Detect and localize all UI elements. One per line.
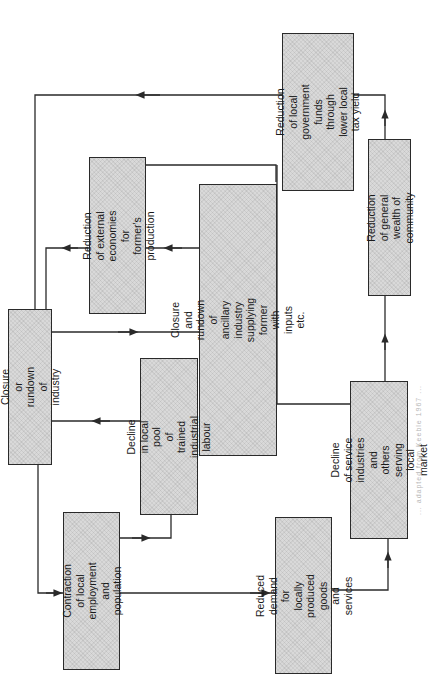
edge-service-external bbox=[277, 165, 350, 404]
node-label: Decline in local pool of trained industr… bbox=[125, 415, 213, 457]
node-reduction-gov-funds: Reduction of local government funds thro… bbox=[282, 33, 354, 191]
node-label: Reduction of external economies for form… bbox=[80, 210, 155, 261]
node-decline-labour-pool: Decline in local pool of trained industr… bbox=[140, 358, 198, 515]
flow-diagram: Closure or rundown of industry Reduction… bbox=[0, 0, 430, 674]
node-label: Contraction of local employment and popu… bbox=[60, 562, 123, 619]
node-reduction-general-wealth: Reduction of general wealth of community bbox=[368, 139, 411, 296]
edge-contraction-labourpool bbox=[120, 515, 171, 538]
node-contraction-employment: Contraction of local employment and popu… bbox=[63, 512, 120, 670]
figure-caption: ... adapted from Keeble 1967 ... bbox=[415, 385, 422, 515]
node-label: Reduction of general wealth of community bbox=[365, 192, 415, 243]
node-reduction-external-economies: Reduction of external economies for form… bbox=[89, 157, 146, 314]
node-label: Closure and rundown of ancillary industr… bbox=[169, 298, 307, 342]
node-label: Reduction of local government funds thro… bbox=[274, 84, 362, 139]
node-label: Closure or rundown of industry bbox=[0, 367, 61, 407]
node-reduced-demand: Reduced demand for locally produced good… bbox=[275, 517, 332, 674]
node-label: Reduced demand for locally produced good… bbox=[254, 574, 354, 618]
node-decline-service-industries: Decline of service industries and others… bbox=[350, 381, 408, 539]
edge-closure-contraction bbox=[38, 465, 63, 593]
node-closure-of-industry: Closure or rundown of industry bbox=[8, 309, 52, 465]
